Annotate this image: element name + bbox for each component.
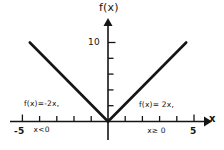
annotation-right-branch: f(x)= 2x, x≥ 0 — [139, 84, 174, 150]
x-axis-label: x — [209, 113, 216, 125]
y-tick-label-10: 10 — [88, 37, 100, 47]
annotation-left-branch: f(x)=-2x, x<0 — [24, 83, 59, 150]
x-tick-label-5: 5 — [190, 126, 196, 136]
y-axis-arrowhead — [104, 18, 113, 26]
y-axis-ticks — [108, 43, 116, 106]
annotation-right-domain: x≥ 0 — [139, 127, 174, 136]
annotation-right-equation: f(x)= 2x, — [139, 101, 174, 110]
x-tick-label-neg5: -5 — [14, 126, 24, 136]
annotation-left-domain: x<0 — [24, 126, 59, 135]
function-graph-figure: f(x) x 10 -5 5 f(x)=-2x, x<0 f(x)= 2x, x… — [0, 0, 224, 150]
annotation-left-equation: f(x)=-2x, — [24, 100, 59, 109]
y-axis-label: f(x) — [99, 2, 119, 15]
